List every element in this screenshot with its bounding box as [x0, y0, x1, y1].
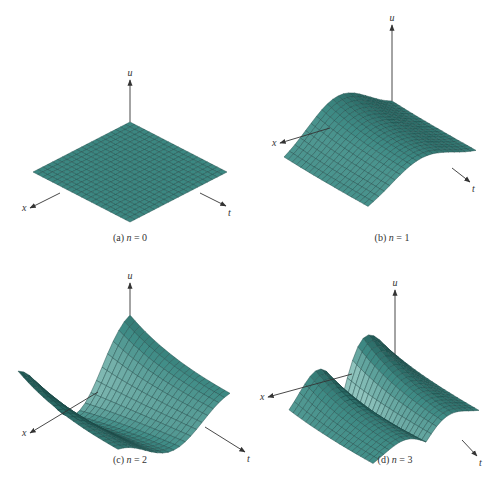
surface-mesh: [284, 93, 476, 206]
surface-mesh: [33, 122, 227, 222]
u-axis-label: u: [393, 277, 398, 288]
panel-c-surface-plot: u x t (c) n = 2: [18, 270, 250, 466]
panel-b-surface-plot: u x t (b) n = 1: [271, 12, 476, 244]
t-axis-label: t: [479, 457, 482, 468]
panel-caption: (d) n = 3: [378, 454, 413, 466]
t-axis-arrow: [452, 168, 470, 182]
panel-d-surface-plot: u x t (d) n = 3: [259, 277, 482, 468]
t-axis-label: t: [472, 183, 475, 194]
surface-mesh: [18, 315, 230, 453]
u-axis-label: u: [390, 12, 395, 23]
u-axis-label: u: [128, 270, 133, 281]
panel-caption: (b) n = 1: [375, 232, 410, 244]
surface-mesh: [289, 335, 479, 464]
x-axis-label: x: [271, 137, 277, 148]
t-axis-label: t: [228, 207, 231, 218]
t-axis-arrow: [205, 427, 245, 452]
panel-a-surface-plot: u x t (a) n = 0: [21, 67, 231, 244]
x-axis-arrow: [30, 193, 60, 208]
panel-caption: (a) n = 0: [113, 232, 147, 244]
t-axis-arrow: [200, 193, 226, 206]
u-axis-label: u: [128, 67, 133, 78]
x-axis-label: x: [21, 427, 27, 438]
figure-canvas: u x t (a) n = 0 u x t (b) n = 1 u x t (c…: [0, 0, 501, 495]
t-axis-label: t: [247, 453, 250, 464]
x-axis-label: x: [21, 202, 27, 213]
t-axis-arrow: [462, 440, 477, 456]
x-axis-label: x: [259, 391, 265, 402]
panel-caption: (c) n = 2: [113, 454, 147, 466]
